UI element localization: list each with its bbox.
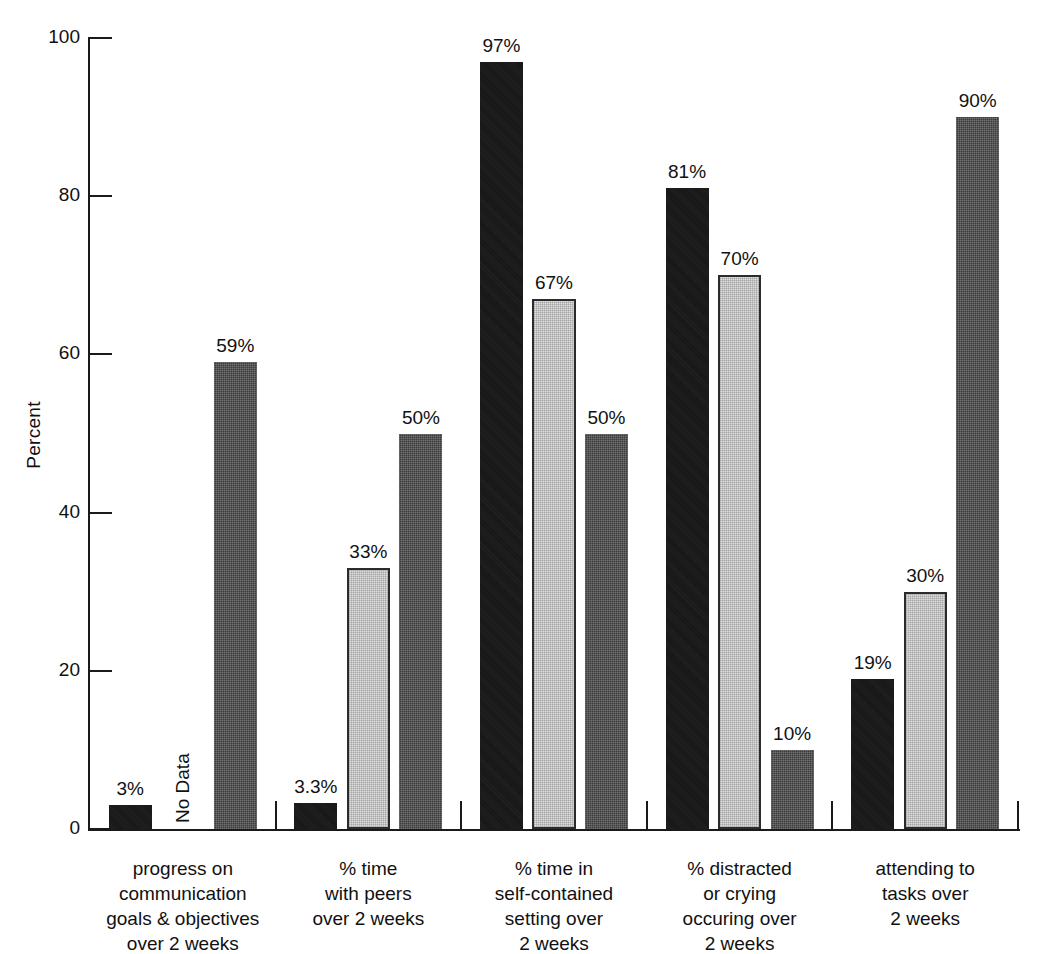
bar-slot[interactable]: 81% [666, 38, 709, 829]
bar[interactable] [666, 188, 709, 829]
category-label-line: attending to [814, 856, 1036, 881]
bar[interactable] [109, 805, 152, 829]
bar[interactable] [399, 434, 442, 830]
bar-group: 81%70%10% [647, 38, 833, 829]
bar-slot[interactable]: 67% [532, 38, 575, 829]
category-label-line: over 2 weeks [72, 931, 294, 954]
y-axis-tick-label: 80 [28, 185, 80, 204]
bar-slot[interactable]: 50% [585, 38, 628, 829]
bar[interactable] [585, 434, 628, 830]
y-axis-tick-label: 40 [28, 502, 80, 521]
bar-slot[interactable]: 97% [480, 38, 523, 829]
bar-slot[interactable]: 19% [851, 38, 894, 829]
y-axis-tick-label: 100 [28, 27, 80, 46]
bar[interactable] [851, 679, 894, 829]
x-axis-line [88, 829, 1020, 831]
bar-slot[interactable]: 30% [904, 38, 947, 829]
bar-slot[interactable]: 3% [109, 38, 152, 829]
x-axis-category-label: attending totasks over2 weeks [814, 856, 1036, 931]
bar-slot[interactable]: 90% [956, 38, 999, 829]
bar[interactable] [214, 362, 257, 829]
y-axis-tick-label: 0 [28, 818, 80, 837]
category-label-line: tasks over [814, 881, 1036, 906]
bar[interactable] [904, 592, 947, 829]
bar-value-label: 50% [563, 408, 650, 427]
bar[interactable] [956, 117, 999, 829]
bar-group: 97%67%50% [461, 38, 647, 829]
no-data-label: No Data [173, 753, 192, 823]
bar-group: 3.3%33%50% [276, 38, 462, 829]
bar[interactable] [718, 275, 761, 829]
bar-value-label: 59% [192, 336, 279, 355]
category-label-line: 2 weeks [814, 906, 1036, 931]
bar[interactable] [771, 750, 814, 829]
bar-value-label: 10% [749, 724, 836, 743]
y-axis-tick-label: 20 [28, 660, 80, 679]
bar-group: 3%No Data59% [90, 38, 276, 829]
bar-slot[interactable]: 59% [214, 38, 257, 829]
bar-slot[interactable]: 33% [347, 38, 390, 829]
bar-slot[interactable]: 70% [718, 38, 761, 829]
y-axis-tick-label: 60 [28, 343, 80, 362]
bar-group: 19%30%90% [832, 38, 1018, 829]
bar-slot[interactable]: 50% [399, 38, 442, 829]
bar-slot[interactable]: 10% [771, 38, 814, 829]
bar-value-label: 90% [934, 91, 1021, 110]
bar[interactable] [532, 299, 575, 829]
bar-slot[interactable]: No Data [161, 38, 204, 829]
plot-area: 3%No Data59%3.3%33%50%97%67%50%81%70%10%… [90, 38, 1020, 829]
bar[interactable] [480, 62, 523, 829]
bar-slot[interactable]: 3.3% [294, 38, 337, 829]
bar[interactable] [294, 803, 337, 829]
category-label-line: 2 weeks [629, 931, 851, 954]
bar-value-label: 50% [377, 408, 464, 427]
bar[interactable] [347, 568, 390, 829]
